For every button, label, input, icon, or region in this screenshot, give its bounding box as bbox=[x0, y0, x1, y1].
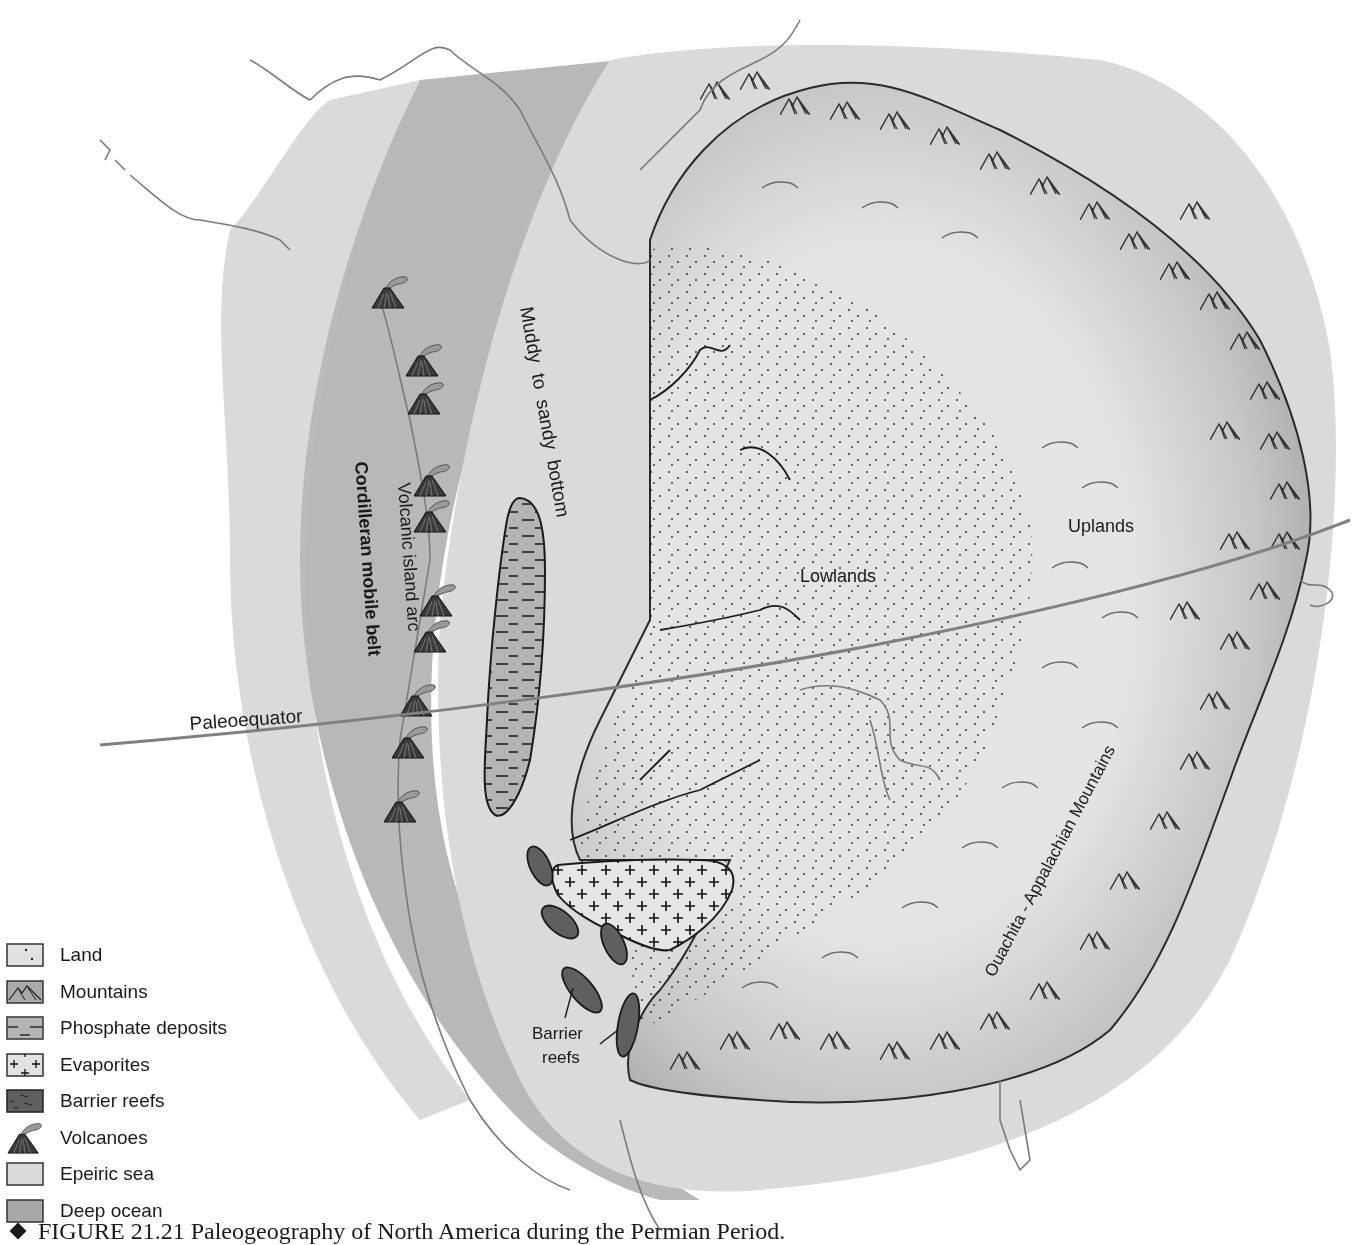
legend-label: Evaporites bbox=[60, 1054, 150, 1076]
volcano-swatch-icon bbox=[6, 1121, 44, 1155]
legend-label: Land bbox=[60, 944, 102, 966]
legend-label: Barrier reefs bbox=[60, 1090, 165, 1112]
land-swatch-icon bbox=[6, 943, 44, 967]
legend-item-barrier-reefs: Barrier reefs bbox=[6, 1083, 326, 1120]
legend-item-evaporites: Evaporites bbox=[6, 1047, 326, 1084]
epeiric-sea-swatch-icon bbox=[6, 1162, 44, 1186]
label-uplands: Uplands bbox=[1068, 516, 1134, 536]
legend-item-volcanoes: Volcanoes bbox=[6, 1120, 326, 1157]
figure-caption: FIGURE 21.21 Paleogeography of North Ame… bbox=[4, 1218, 785, 1245]
legend-item-land: Land bbox=[6, 937, 326, 974]
barrier-reefs-swatch-icon bbox=[6, 1089, 44, 1113]
legend-label: Mountains bbox=[60, 981, 148, 1003]
label-lowlands: Lowlands bbox=[800, 566, 876, 586]
map-legend: Land Mountains Phosphate deposits Evapor… bbox=[6, 937, 326, 1229]
legend-label: Volcanoes bbox=[60, 1127, 148, 1149]
phosphate-swatch-icon bbox=[6, 1016, 44, 1040]
legend-item-mountains: Mountains bbox=[6, 974, 326, 1011]
evaporites-swatch-icon bbox=[6, 1053, 44, 1077]
legend-label: Epeiric sea bbox=[60, 1163, 154, 1185]
caption-diamond-icon bbox=[10, 1223, 27, 1240]
mountains-swatch-icon bbox=[6, 980, 44, 1004]
legend-label: Phosphate deposits bbox=[60, 1017, 227, 1039]
caption-text: FIGURE 21.21 Paleogeography of North Ame… bbox=[38, 1218, 785, 1244]
label-barrier-reefs-1: Barrier bbox=[532, 1024, 583, 1043]
legend-item-epeiric-sea: Epeiric sea bbox=[6, 1156, 326, 1193]
label-barrier-reefs-2: reefs bbox=[542, 1048, 580, 1067]
legend-item-phosphate: Phosphate deposits bbox=[6, 1010, 326, 1047]
